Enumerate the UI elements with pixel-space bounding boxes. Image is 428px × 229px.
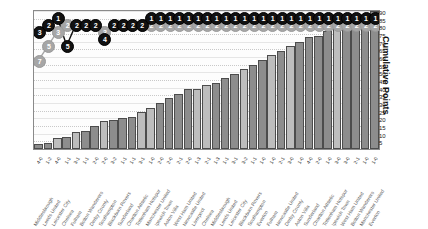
cumulative-points-chart: 7532222322222222222222222222222222222321… (0, 0, 428, 229)
match-score: 2-0 (91, 156, 100, 165)
match-score: 1-0 (146, 156, 155, 165)
match-score: 3-0 (333, 156, 342, 165)
position-marker: 1 (52, 12, 65, 25)
x-axis-labels: 4-0Middlesbrough1-2Leeds United4-0Leices… (33, 149, 378, 229)
y-axis-title: Cumulative Points (381, 36, 391, 115)
match-score: 2-1 (174, 156, 183, 165)
match-score: 2-0 (165, 156, 174, 165)
match-score: 2-1 (202, 156, 211, 165)
match-score: 2-0 (184, 156, 193, 165)
match-score: 2-0 (100, 156, 109, 165)
position-marker: 2 (89, 19, 102, 32)
match-score: 3-1 (137, 156, 146, 165)
match-score: 1-0 (324, 156, 333, 165)
plot-area: 7532222322222222222222222222222222222321… (33, 10, 380, 150)
y-tick-label: 15 (379, 125, 386, 131)
position-marker: 7 (33, 55, 46, 68)
match-score: 1-3 (193, 156, 202, 165)
match-score: 1-0 (258, 156, 267, 165)
match-score: 4-0 (53, 156, 62, 165)
match-score: 3-1 (230, 156, 239, 165)
match-score: 1-1 (63, 156, 72, 165)
match-score: 2-1 (352, 156, 361, 165)
match-score: 2-0 (314, 156, 323, 165)
match-score: 1-1 (81, 156, 90, 165)
position-marker: 1 (369, 12, 380, 25)
match-score: 1-1 (128, 156, 137, 165)
match-score: 1-3 (212, 156, 221, 165)
match-score: 1-1 (249, 156, 258, 165)
match-score: 1-0 (361, 156, 370, 165)
match-score: 1-0 (370, 156, 379, 165)
y-tick-label: 10 (379, 133, 386, 139)
position-lines (34, 11, 379, 149)
match-score: 3-2 (109, 156, 118, 165)
match-score: 1-0 (268, 156, 277, 165)
match-score: 3-1 (72, 156, 81, 165)
y-tick-label: 90 (379, 10, 386, 16)
match-score: 1-1 (118, 156, 127, 165)
match-score: 4-0 (305, 156, 314, 165)
match-score: 3-0 (342, 156, 351, 165)
y-tick-label: 85 (379, 18, 386, 24)
line-series: 7532222322222222222222222222222222222321… (34, 11, 379, 149)
match-score: 1-1 (221, 156, 230, 165)
match-score: 3-0 (286, 156, 295, 165)
match-score: 1-2 (44, 156, 53, 165)
match-score: 4-0 (35, 156, 44, 165)
y-tick-label: 5 (379, 140, 382, 146)
match-score: 2-1 (277, 156, 286, 165)
match-score: 2-0 (156, 156, 165, 165)
y-tick-label: 20 (379, 117, 386, 123)
match-score: 1-0 (296, 156, 305, 165)
match-score: 3-2 (240, 156, 249, 165)
y-tick-label: 80 (379, 25, 386, 31)
